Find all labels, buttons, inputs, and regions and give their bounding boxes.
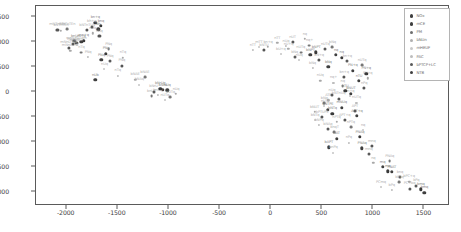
point-label: nPTq	[347, 121, 355, 125]
point-label: nUT	[321, 100, 328, 104]
data-point	[408, 187, 411, 190]
data-point	[94, 78, 97, 81]
data-point	[56, 28, 59, 31]
point-label: nTT	[274, 37, 280, 41]
data-point	[258, 46, 260, 48]
legend-item[interactable]: mCE	[408, 20, 447, 28]
point-label: nUT	[289, 36, 296, 40]
legend-item[interactable]: PM	[408, 28, 447, 36]
data-point	[309, 53, 312, 56]
point-label: bNAq	[323, 123, 332, 127]
legend-item[interactable]: mHEUF	[408, 44, 447, 52]
point-label: bNq	[309, 62, 316, 66]
data-point	[82, 39, 85, 42]
data-point	[280, 53, 282, 55]
data-point	[150, 95, 153, 98]
data-point	[276, 42, 278, 44]
y-tick-label: 1000	[0, 38, 9, 45]
y-tick-label: -2000	[0, 188, 9, 195]
data-point	[164, 99, 166, 101]
x-tick-label: 500	[315, 209, 327, 216]
point-label: bNTnUq	[332, 92, 345, 96]
point-label: bnPq	[329, 146, 337, 150]
data-point	[332, 81, 334, 83]
x-tick-label: -500	[212, 209, 226, 216]
point-label: PNq	[119, 59, 126, 63]
point-label: PN+q	[348, 64, 358, 68]
legend-item[interactable]: bPTCP+LC	[408, 61, 447, 69]
legend-item[interactable]: bNUn	[408, 36, 447, 44]
data-point	[80, 51, 83, 54]
data-point	[318, 124, 320, 126]
data-point	[109, 60, 112, 63]
x-tick-mark	[65, 205, 66, 209]
point-label: nUTq	[160, 94, 169, 98]
point-label: nPq	[346, 136, 352, 140]
point-label: nUb	[92, 74, 99, 78]
point-label: nUq	[283, 40, 290, 44]
x-tick-mark	[423, 205, 424, 209]
legend-marker-icon	[410, 22, 413, 25]
point-label: bAPT	[325, 141, 334, 145]
data-point	[72, 43, 75, 46]
point-label: mnq	[365, 148, 373, 152]
data-point	[391, 189, 393, 191]
data-point	[423, 191, 426, 194]
x-tick-mark	[116, 205, 117, 209]
point-label: bPTq	[395, 176, 403, 180]
point-label: bn+q	[343, 55, 352, 59]
point-label: bNTq	[311, 114, 320, 118]
x-tick-mark	[219, 205, 220, 209]
data-point	[330, 93, 333, 96]
point-label: bh+q	[87, 20, 96, 24]
legend-marker-icon	[410, 47, 413, 50]
point-label: PNq	[98, 54, 105, 58]
point-label: mn+q	[78, 34, 88, 38]
data-point	[323, 105, 325, 107]
point-label: nq	[361, 124, 365, 128]
legend-item[interactable]: NOx	[408, 12, 447, 20]
point-label: bN+q	[314, 54, 324, 58]
data-point	[318, 58, 321, 61]
data-point	[138, 84, 140, 86]
point-label: nq	[334, 49, 338, 53]
point-label: nTq	[115, 69, 121, 73]
point-label: nUTq	[352, 96, 361, 100]
data-point	[90, 25, 93, 28]
point-label: bNq	[291, 51, 298, 55]
data-point	[103, 68, 105, 70]
legend-marker-icon	[410, 71, 413, 74]
point-label: APT	[352, 105, 358, 109]
point-label: nUq	[329, 89, 336, 93]
data-point	[117, 74, 119, 76]
point-label: bn+q	[263, 41, 272, 45]
point-label: PNq	[107, 55, 114, 59]
x-tick-label: -2000	[57, 209, 74, 216]
data-point	[340, 106, 343, 109]
legend-marker-icon	[410, 55, 413, 58]
data-point	[143, 76, 146, 79]
point-label: nUTq	[321, 43, 330, 47]
data-point	[311, 67, 313, 69]
data-point	[99, 24, 102, 27]
point-label: mnq	[368, 140, 376, 144]
data-point	[285, 45, 287, 47]
x-tick-mark	[270, 205, 271, 209]
legend-item[interactable]: NTB	[408, 69, 447, 77]
chart-legend: NOxmCEPMbNUnmHEUFPACbPTCP+LCNTB	[404, 8, 450, 81]
data-point	[348, 141, 350, 143]
point-label: bNPq	[315, 119, 324, 123]
x-tick-label: 1000	[365, 209, 380, 216]
point-label: PCmq	[376, 181, 386, 185]
point-label: nUq	[173, 88, 180, 92]
data-point	[358, 135, 361, 138]
data-point	[390, 170, 393, 173]
point-label: bn+q	[345, 90, 354, 94]
data-point	[298, 59, 300, 61]
scatter-plot-figure: 150010005000-500-1000-1500-2000 -2000-15…	[0, 0, 461, 232]
point-label: APT+q	[339, 114, 350, 118]
data-point	[367, 77, 369, 79]
data-point	[92, 32, 94, 34]
legend-item[interactable]: PAC	[408, 52, 447, 60]
point-label: nTq	[120, 51, 126, 55]
